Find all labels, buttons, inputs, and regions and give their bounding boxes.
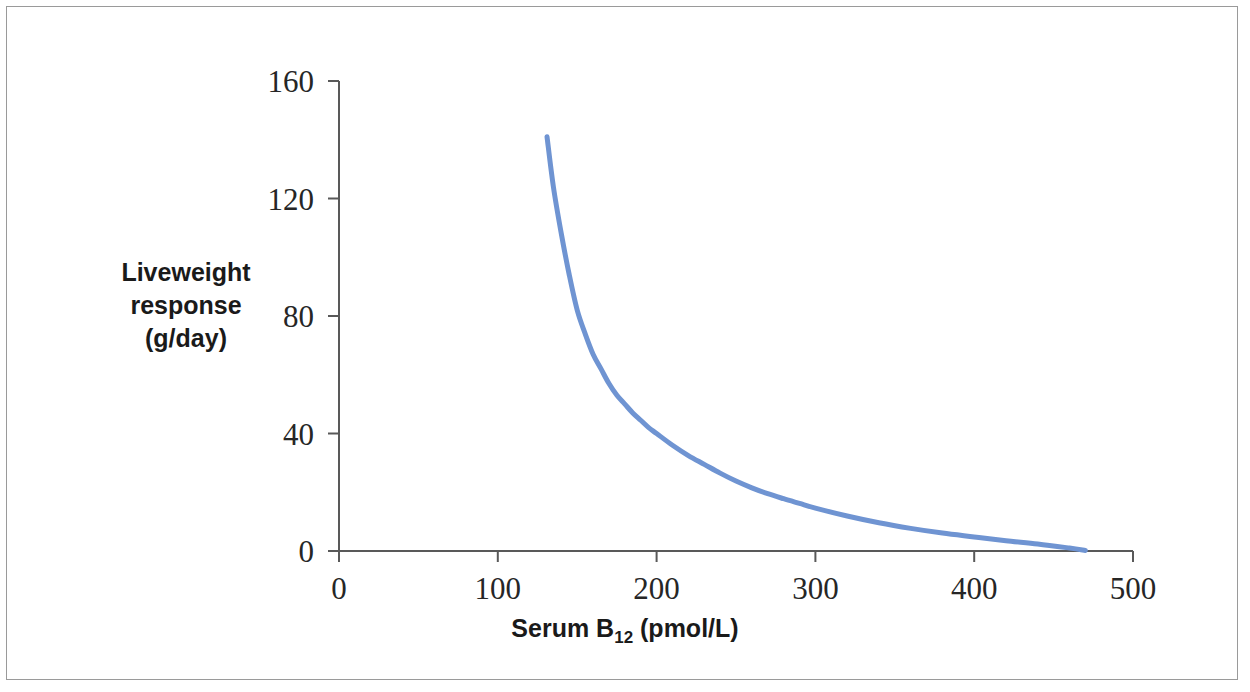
- y-axis-title-line-2: response: [98, 289, 274, 322]
- y-tick-label: 40: [180, 418, 314, 449]
- x-tick-marks: [339, 551, 1133, 562]
- y-tick-label: 120: [180, 183, 314, 214]
- x-tick-label: 400: [951, 573, 998, 604]
- x-axis-title: Serum B12 (pmol/L): [0, 612, 1250, 645]
- y-tick-label: 160: [180, 66, 314, 97]
- y-axis-title-line-1: Liveweight: [98, 256, 274, 289]
- x-tick-label: 200: [633, 573, 680, 604]
- x-tick-label: 500: [1110, 573, 1157, 604]
- data-series-line: [547, 137, 1085, 551]
- x-tick-label: 100: [475, 573, 522, 604]
- x-tick-label: 300: [792, 573, 839, 604]
- y-axis-title-line-3: (g/day): [98, 322, 274, 355]
- y-tick-marks: [328, 81, 339, 551]
- x-axis-title-subscript: 12: [614, 628, 633, 647]
- chart-plot-area: 04080120160 0100200300400500 Liveweight …: [0, 0, 1250, 692]
- y-tick-label: 0: [180, 536, 314, 567]
- x-axis-title-prefix: Serum B: [511, 614, 614, 642]
- x-tick-label: 0: [331, 573, 347, 604]
- y-axis-title: Liveweight response (g/day): [98, 256, 274, 355]
- figure-container: 04080120160 0100200300400500 Liveweight …: [0, 0, 1250, 692]
- x-axis-title-suffix: (pmol/L): [633, 614, 739, 642]
